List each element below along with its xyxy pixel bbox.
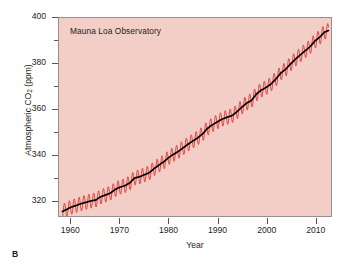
x-tick-label: 1960 [50,225,90,235]
x-axis-title: Year [58,240,332,250]
y-minor-tick [54,86,58,87]
co2-figure: Mauna Loa Observatory 320340360380400 19… [0,0,354,274]
y-major-tick [52,155,58,156]
y-axis-title-subscript: 2 [26,89,33,93]
x-tick-label: 2000 [247,225,287,235]
y-tick-label: 340 [32,149,46,159]
y-major-tick [52,17,58,18]
panel-letter: B [12,249,18,259]
x-tick-label: 2010 [296,225,336,235]
x-major-tick [119,218,120,224]
x-tick-label: 1970 [99,225,139,235]
y-major-tick [52,201,58,202]
y-major-tick [52,109,58,110]
y-axis-title: Atmospheric CO2 (ppm) [23,20,33,200]
y-axis-title-suffix: (ppm) [23,64,33,89]
y-axis-title-prefix: Atmospheric CO [23,93,33,156]
x-tick-label: 1990 [198,225,238,235]
x-tick-label: 1980 [148,225,188,235]
x-major-tick [316,218,317,224]
y-major-tick [52,63,58,64]
x-major-tick [267,218,268,224]
y-tick-label: 360 [32,103,46,113]
y-tick-label: 400 [32,11,46,21]
trend-co2-line [62,31,328,212]
x-major-tick [168,218,169,224]
chart-svg [59,18,331,216]
y-tick-label: 320 [32,195,46,205]
seasonal-co2-line [62,24,328,216]
plot-area [59,18,331,216]
y-minor-tick [54,132,58,133]
y-minor-tick [54,178,58,179]
x-major-tick [70,218,71,224]
x-major-tick [218,218,219,224]
plot-frame [58,17,332,217]
y-minor-tick [54,40,58,41]
chart-title: Mauna Loa Observatory [70,26,161,36]
y-tick-label: 380 [32,57,46,67]
